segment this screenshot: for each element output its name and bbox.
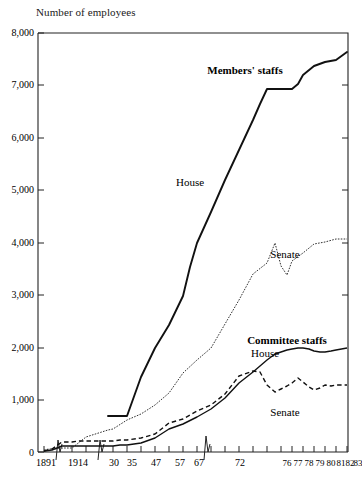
x-tick-label: 77 bbox=[294, 458, 304, 468]
x-tick-label: 78 bbox=[305, 458, 315, 468]
x-tick-label: 67 bbox=[194, 457, 204, 468]
y-axis-ticks bbox=[38, 33, 348, 452]
x-tick-label: 72 bbox=[235, 457, 245, 468]
y-tick-label: 8,000 bbox=[12, 27, 35, 38]
x-tick-label: 35 bbox=[127, 457, 137, 468]
series-members-house bbox=[108, 52, 347, 416]
y-tick-label: 4,000 bbox=[12, 237, 35, 248]
annotation-committee-staffs: Committee staffs bbox=[247, 334, 327, 346]
annotation-committee-senate: Senate bbox=[270, 406, 299, 418]
x-tick-label: 76 bbox=[283, 458, 293, 468]
x-tick-label: 1891 bbox=[36, 457, 56, 468]
series-committee-senate bbox=[44, 371, 347, 451]
x-tick-label: 81 bbox=[337, 458, 346, 468]
x-tick-label: 30 bbox=[109, 457, 119, 468]
x-tick-label: 80 bbox=[327, 458, 337, 468]
x-tick-label: 57 bbox=[175, 457, 185, 468]
chart-svg: 8,000 7,000 6,000 5,000 4,000 3,000 2,00… bbox=[0, 0, 362, 479]
x-axis-labels: 1891 1914 30 35 47 57 67 72 76 77 78 79 … bbox=[36, 457, 362, 468]
y-tick-label: 5,000 bbox=[12, 184, 35, 195]
x-tick-label: 79 bbox=[316, 458, 326, 468]
y-axis-labels: 8,000 7,000 6,000 5,000 4,000 3,000 2,00… bbox=[12, 27, 35, 458]
x-tick-label: 1914 bbox=[68, 457, 88, 468]
annotation-members-house: House bbox=[176, 176, 204, 188]
plot-frame bbox=[38, 33, 348, 452]
y-tick-label: 6,000 bbox=[12, 132, 35, 143]
chart-container: Number of employees 8,000 7,000 6,000 bbox=[0, 0, 362, 479]
annotation-members-senate: Senate bbox=[270, 248, 299, 260]
x-tick-label: 47 bbox=[151, 457, 161, 468]
x-axis-ticks bbox=[44, 446, 347, 452]
y-tick-label: 2,000 bbox=[12, 342, 35, 353]
x-tick-label: 83 bbox=[354, 458, 362, 468]
y-tick-label: 3,000 bbox=[12, 289, 35, 300]
y-tick-label: 0 bbox=[29, 447, 34, 458]
annotation-members-staffs: Members' staffs bbox=[207, 64, 283, 76]
annotation-committee-house: House bbox=[251, 347, 279, 359]
y-tick-label: 1,000 bbox=[12, 394, 35, 405]
y-tick-label: 7,000 bbox=[12, 79, 35, 90]
series-group bbox=[44, 52, 347, 451]
